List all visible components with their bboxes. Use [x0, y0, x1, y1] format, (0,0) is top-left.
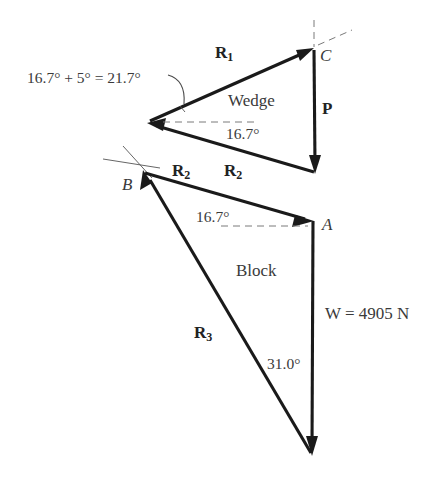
block-region-label: Block — [236, 262, 277, 279]
vector-r2-right-label-subscript: 2 — [236, 168, 242, 182]
angle-block-lower-label: 31.0° — [267, 356, 300, 372]
vector-r2-right-label: R2 — [224, 162, 242, 181]
angle-block-upper-label: 16.7° — [196, 209, 229, 225]
vector-r1-label-base: R — [215, 43, 227, 62]
weight-label: W = 4905 N — [325, 305, 409, 322]
vector-r2-right-label-base: R — [224, 161, 236, 180]
vector-r3-label: R3 — [194, 324, 212, 343]
vector-r3-shaft — [150, 180, 311, 453]
vector-r3-label-subscript: 3 — [206, 330, 212, 344]
vector-r2-left-label: R2 — [172, 162, 190, 181]
angle-wedge-lower-label: 16.7° — [226, 126, 259, 142]
point-b-label: B — [122, 176, 132, 193]
angle-sum-label: 16.7° + 5° = 21.7° — [27, 70, 141, 86]
point-a-label: A — [322, 216, 332, 233]
angle-sum-leader-line — [168, 75, 184, 104]
point-c-label: C — [320, 47, 331, 64]
force-polygon-figure: 16.7° + 5° = 21.7° R1 C Wedge P 16.7° B … — [0, 0, 447, 484]
vector-w-shaft — [312, 221, 313, 447]
vector-r1-label-subscript: 1 — [227, 50, 233, 64]
vector-r2-left-label-subscript: 2 — [184, 168, 190, 182]
vector-r1-arrowhead — [296, 48, 314, 61]
vector-r3-label-base: R — [194, 323, 206, 342]
vector-r2-left-label-base: R — [172, 161, 184, 180]
vector-r2-block-arrowhead — [292, 215, 314, 227]
construction-line-shallow-at-b — [103, 159, 160, 168]
r1-direction-dashed-extension-at-c — [318, 30, 352, 45]
vector-p-shaft — [314, 50, 315, 165]
vector-p-label: P — [322, 100, 332, 117]
vector-r1-label: R1 — [215, 44, 233, 63]
wedge-region-label: Wedge — [228, 92, 275, 109]
